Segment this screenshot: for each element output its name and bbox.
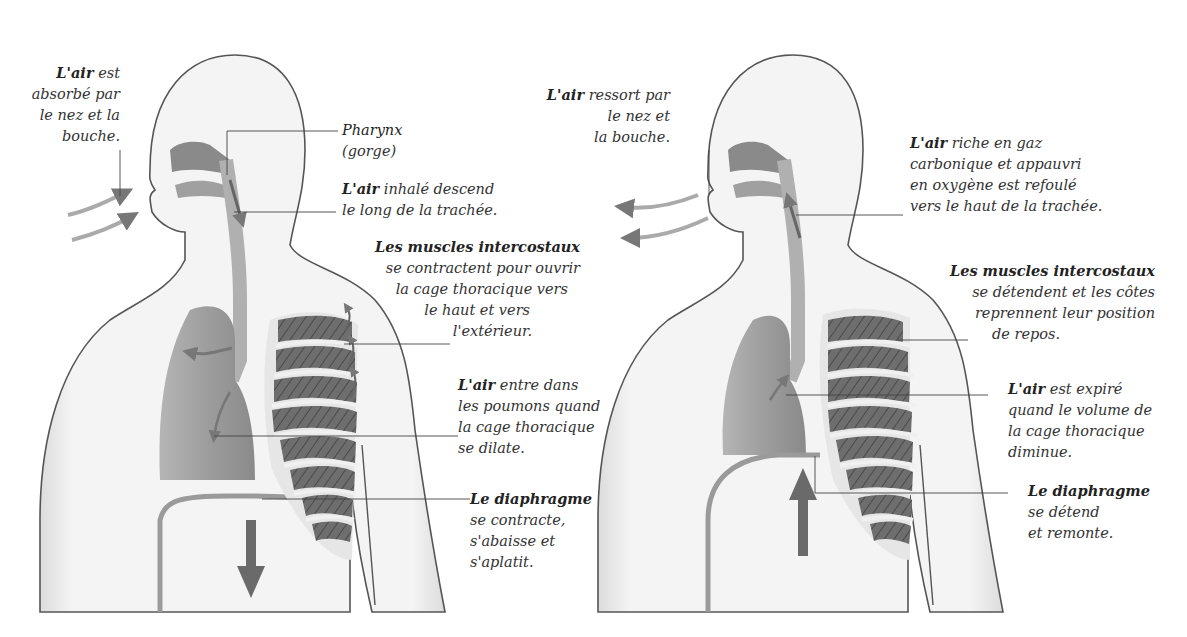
label-trachea-exhale: L'air riche en gaz carbonique et appauvr…	[910, 132, 1102, 217]
label-diaphragm-relax: Le diaphragme se détend et remonte.	[1028, 480, 1150, 544]
label-air-absorbed: L'air est absorbé par le nez et la bouch…	[18, 62, 120, 147]
label-diaphragm-contract: Le diaphragme se contracte, s'abaisse et…	[470, 488, 592, 573]
label-air-enters-lungs: L'air entre dans les poumons quand la ca…	[458, 374, 600, 459]
breathing-diagram: L'air est absorbé par le nez et la bouch…	[0, 0, 1187, 637]
label-pharynx: Pharynx (gorge)	[342, 120, 402, 162]
label-intercostal-relax: Les muscles intercostaux se détendent et…	[940, 260, 1155, 345]
label-trachea-inhale: L'air inhalé descend le long de la trach…	[342, 178, 497, 221]
label-air-exits: L'air ressort par le nez et la bouche.	[540, 84, 670, 148]
label-air-expired: L'air est expiré quand le volume de la c…	[1008, 378, 1152, 463]
label-intercostal-contract: Les muscles intercostaux se contractent …	[370, 236, 580, 342]
